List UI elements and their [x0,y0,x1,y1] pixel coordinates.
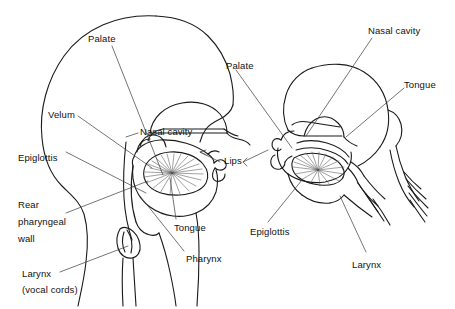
leader-tongue-right [346,88,404,137]
label-larynx-left-line1: Larynx [22,268,51,280]
left-velum [137,135,166,152]
label-larynx-left-line2: (vocal cords) [22,284,78,296]
label-velum: Velum [48,109,75,121]
leader-larynx-right [340,196,366,252]
leader-epiglottis-right [268,180,302,222]
right-tongue-hatching [293,152,344,186]
right-epiglottis-larynx [288,162,390,225]
leader-nasal-cavity-right [306,38,372,136]
label-nasal-cavity-left: Nasal cavity [140,126,192,138]
leader-larynx-left [60,246,128,272]
label-epiglottis-right: Epiglottis [250,226,290,238]
leader-rear-pharyngeal-wall [66,181,148,213]
left-tongue [144,152,208,195]
leader-tongue-left [170,178,176,219]
label-pharynx: Pharynx [186,253,222,265]
right-neck-strands [390,146,428,222]
left-nasal-cavity [148,102,250,145]
leader-velum [78,116,152,168]
label-tongue-right: Tongue [404,79,436,91]
label-rear-pharyngeal-wall-line1: Rear [18,199,39,211]
leader-lines-right [236,38,404,252]
leader-epiglottis-left [66,152,146,193]
label-nasal-cavity-right: Nasal cavity [368,25,420,37]
leader-nasal-cavity-left [126,133,138,137]
label-palate-right: Palate [226,60,254,72]
figure-canvas: Palate Velum Epiglottis Rear pharyngeal … [0,0,455,309]
label-epiglottis-left: Epiglottis [18,152,58,164]
label-palate-left: Palate [88,33,116,45]
leader-palate-left [112,46,163,175]
label-rear-pharyngeal-wall-line2: pharyngeal [18,216,66,228]
label-rear-pharyngeal-wall-line3: wall [18,233,35,245]
left-epiglottis [136,222,159,235]
label-tongue-left: Tongue [174,222,206,234]
leader-lips-right-arrow [243,150,268,162]
label-lips: Lips [224,155,242,167]
label-larynx-right: Larynx [352,259,381,271]
